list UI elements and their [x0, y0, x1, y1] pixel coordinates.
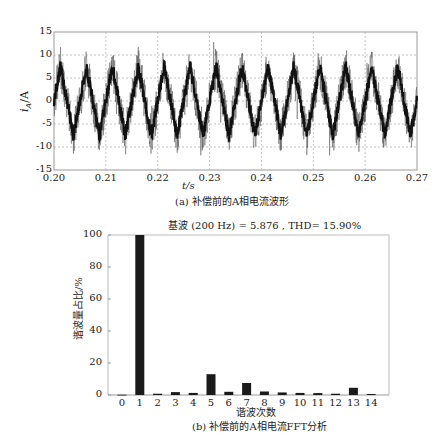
x-tick-label: 13 — [347, 397, 360, 408]
bar-harmonic-4 — [189, 393, 198, 395]
x-tick-label: 5 — [208, 397, 214, 408]
bar-harmonic-10 — [296, 393, 305, 395]
x-tick-label: 10 — [294, 397, 307, 408]
fft-canvas — [0, 0, 442, 444]
x-tick-label: 14 — [365, 397, 378, 408]
bar-harmonic-5 — [207, 374, 216, 395]
bar-harmonic-8 — [260, 391, 269, 395]
y-tick-label: 0 — [96, 388, 102, 399]
x-tick-label: 2 — [154, 397, 160, 408]
fft-caption: (b) 补偿前的A相电流FFT分析 — [192, 418, 327, 433]
bar-harmonic-12 — [331, 394, 340, 395]
y-tick-label: 40 — [89, 324, 102, 335]
bar-harmonic-3 — [171, 392, 180, 395]
bar-harmonic-11 — [313, 393, 322, 395]
x-tick-label: 12 — [329, 397, 342, 408]
x-tick-label: 11 — [311, 397, 324, 408]
x-tick-label: 4 — [190, 397, 196, 408]
x-tick-label: 1 — [137, 397, 143, 408]
y-tick-label: 80 — [89, 260, 102, 271]
x-tick-label: 6 — [226, 397, 232, 408]
x-tick-label: 3 — [172, 397, 178, 408]
bar-harmonic-7 — [242, 383, 251, 395]
bar-harmonic-1 — [135, 235, 144, 395]
fft-x-label: 谐波次数 — [236, 404, 276, 419]
bar-harmonic-13 — [349, 388, 358, 395]
bar-harmonic-6 — [224, 392, 233, 395]
fft-y-label: 谐波量占比/% — [70, 277, 85, 340]
bar-harmonic-0 — [118, 395, 127, 396]
x-tick-label: 9 — [279, 397, 285, 408]
y-tick-label: 100 — [83, 228, 102, 239]
bar-harmonic-2 — [153, 394, 162, 395]
x-tick-label: 0 — [119, 397, 125, 408]
y-tick-label: 60 — [89, 292, 102, 303]
y-tick-label: 20 — [89, 356, 102, 367]
bar-harmonic-14 — [367, 394, 376, 395]
bar-harmonic-9 — [278, 392, 287, 395]
